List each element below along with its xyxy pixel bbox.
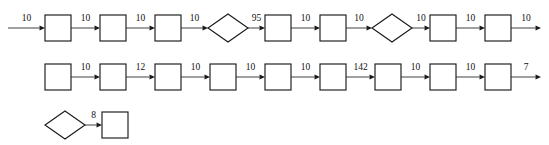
flow-edge: 10: [8, 13, 45, 31]
flow-edge: 8: [85, 110, 102, 128]
edge-arrowhead-icon: [425, 25, 431, 30]
flow-edge: 142: [346, 62, 375, 80]
edge-label: 7: [524, 62, 529, 72]
flow-edge: 7: [511, 62, 541, 80]
process-node[interactable]: [485, 64, 511, 90]
process-node[interactable]: [155, 15, 181, 41]
flow-edge: 10: [181, 13, 208, 31]
edge-arrowhead-icon: [95, 25, 101, 30]
edge-label: 10: [466, 13, 476, 23]
flow-edge: 10: [511, 13, 541, 31]
decision-node[interactable]: [45, 111, 85, 139]
process-node[interactable]: [265, 64, 291, 90]
edge-label: 10: [190, 13, 200, 23]
edge-arrowhead-icon: [95, 74, 101, 79]
edge-arrowhead-icon: [480, 25, 486, 30]
flow-edge: 10: [236, 62, 265, 80]
edge-label: 10: [246, 62, 256, 72]
edge-label: 10: [521, 13, 531, 23]
edge-arrowhead-icon: [536, 74, 542, 79]
edge-label: 10: [136, 13, 146, 23]
flow-edge: 10: [412, 13, 430, 31]
flow-edge: 10: [71, 62, 100, 80]
edge-label: 8: [91, 110, 96, 120]
edge-arrowhead-icon: [536, 25, 542, 30]
edge-arrowhead-icon: [40, 25, 46, 30]
edge-arrowhead-icon: [315, 25, 321, 30]
edge-arrowhead-icon: [480, 74, 486, 79]
flow-edge: 10: [346, 13, 372, 31]
flowchart-diagram: 101010109510101010101012101010142101078: [0, 0, 549, 145]
edge-arrowhead-icon: [150, 25, 156, 30]
decision-node[interactable]: [372, 14, 412, 42]
process-node[interactable]: [430, 64, 456, 90]
process-node[interactable]: [155, 64, 181, 90]
flow-edge: 10: [126, 13, 155, 31]
process-node[interactable]: [320, 64, 346, 90]
edge-label: 10: [81, 62, 91, 72]
process-node[interactable]: [210, 64, 236, 90]
process-node[interactable]: [100, 64, 126, 90]
process-node[interactable]: [265, 15, 291, 41]
process-node[interactable]: [100, 15, 126, 41]
edge-label: 142: [353, 62, 368, 72]
edge-label: 10: [22, 13, 32, 23]
flow-edge: 10: [181, 62, 210, 80]
flow-edge: 10: [71, 13, 100, 31]
flowchart-canvas: 101010109510101010101012101010142101078: [0, 0, 549, 145]
edge-label: 10: [81, 13, 91, 23]
process-node[interactable]: [102, 112, 128, 138]
edge-arrowhead-icon: [150, 74, 156, 79]
edge-label: 10: [354, 13, 364, 23]
process-node[interactable]: [485, 15, 511, 41]
edge-label: 10: [411, 62, 421, 72]
edge-label: 10: [416, 13, 426, 23]
edge-label: 10: [301, 62, 311, 72]
flow-edge: 10: [291, 62, 320, 80]
flow-edge: 10: [401, 62, 430, 80]
edge-arrowhead-icon: [370, 74, 376, 79]
process-node[interactable]: [45, 64, 71, 90]
process-node[interactable]: [375, 64, 401, 90]
edge-label: 10: [466, 62, 476, 72]
edge-label: 10: [301, 13, 311, 23]
edge-label: 10: [191, 62, 201, 72]
edge-arrowhead-icon: [205, 74, 211, 79]
edge-arrowhead-icon: [425, 74, 431, 79]
flow-edge: 10: [456, 62, 485, 80]
process-node[interactable]: [430, 15, 456, 41]
process-node[interactable]: [320, 15, 346, 41]
edge-label: 12: [136, 62, 146, 72]
flow-edge: 95: [248, 13, 265, 31]
edge-arrowhead-icon: [97, 122, 103, 127]
edge-label: 95: [252, 13, 262, 23]
process-node[interactable]: [45, 15, 71, 41]
edge-arrowhead-icon: [260, 25, 266, 30]
flow-edge: 10: [456, 13, 485, 31]
flow-edge: 10: [291, 13, 320, 31]
edge-arrowhead-icon: [260, 74, 266, 79]
edge-arrowhead-icon: [315, 74, 321, 79]
decision-node[interactable]: [208, 14, 248, 42]
flow-edge: 12: [126, 62, 155, 80]
